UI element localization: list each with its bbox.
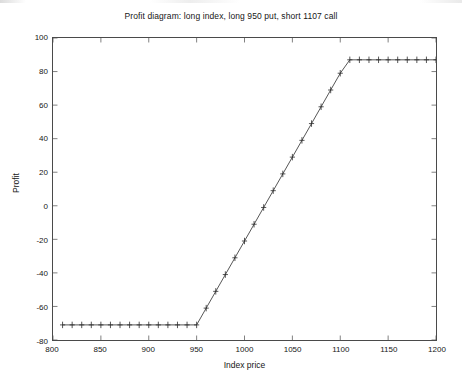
y-tick-label: 40 — [4, 134, 48, 143]
x-tick-label: 1000 — [222, 345, 268, 354]
y-tick-label: -60 — [4, 303, 48, 312]
y-tick-label: 80 — [4, 66, 48, 75]
x-axis-tick-labels: 80085090095010001050110011501200 — [52, 345, 437, 359]
y-tick-label: -20 — [4, 235, 48, 244]
x-tick-label: 800 — [29, 345, 75, 354]
x-tick-label: 1200 — [414, 345, 460, 354]
x-tick-label: 1050 — [270, 345, 316, 354]
y-axis-tick-labels: -80-60-40-20020406080100 — [0, 37, 48, 341]
y-axis-ticks — [53, 38, 436, 340]
y-tick-label: 100 — [4, 33, 48, 42]
x-tick-label: 850 — [77, 345, 123, 354]
plot-axes — [52, 37, 437, 341]
profit-line — [63, 60, 436, 325]
x-tick-label: 900 — [125, 345, 171, 354]
x-axis-label: Index price — [52, 360, 437, 370]
plot-canvas — [53, 38, 436, 340]
profit-diagram-figure: Profit diagram: long index, long 950 put… — [0, 0, 462, 390]
x-tick-label: 1100 — [318, 345, 364, 354]
y-tick-label: 60 — [4, 100, 48, 109]
data-point-markers — [60, 57, 436, 329]
x-tick-label: 950 — [173, 345, 219, 354]
x-tick-label: 1150 — [366, 345, 412, 354]
y-tick-label: -40 — [4, 269, 48, 278]
scan-artifact-band — [0, 0, 462, 3]
chart-title: Profit diagram: long index, long 950 put… — [0, 11, 462, 21]
x-axis-ticks — [53, 38, 436, 340]
y-axis-label: Profit — [11, 153, 21, 213]
